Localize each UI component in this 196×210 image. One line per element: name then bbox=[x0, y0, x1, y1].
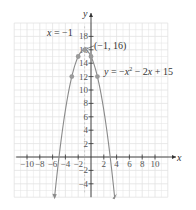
x-tick-label: −4 bbox=[61, 159, 71, 169]
y-tick-label: 18 bbox=[79, 31, 89, 41]
y-tick-label: −4 bbox=[78, 179, 88, 189]
x-tick-label: 4 bbox=[114, 159, 119, 169]
parabola-chart: −10−8−6−4−2246810−4−224681012141618 y x … bbox=[0, 0, 196, 210]
data-point bbox=[82, 47, 87, 52]
equation-label: y = −x2 − 2x + 15 bbox=[103, 66, 173, 77]
x-tick-label: 8 bbox=[140, 159, 145, 169]
y-tick-label: 12 bbox=[79, 72, 88, 82]
y-tick-label: 2 bbox=[84, 139, 89, 149]
data-point bbox=[89, 54, 94, 59]
y-tick-label: −2 bbox=[78, 165, 88, 175]
data-point bbox=[95, 74, 100, 79]
y-tick-label: 10 bbox=[79, 85, 89, 95]
data-point bbox=[69, 74, 74, 79]
y-tick-label: 8 bbox=[84, 98, 89, 108]
x-tick-label: −6 bbox=[48, 159, 58, 169]
y-tick-label: 4 bbox=[84, 125, 89, 135]
y-tick-label: 6 bbox=[84, 112, 89, 122]
x-tick-label: 2 bbox=[102, 159, 107, 169]
y-axis-arrow-icon bbox=[89, 13, 93, 17]
data-point bbox=[76, 54, 81, 59]
x-axis-arrow-icon bbox=[172, 155, 176, 159]
x-axis-label: x bbox=[176, 152, 182, 163]
y-axis-label: y bbox=[82, 8, 88, 19]
left-arrow-icon bbox=[52, 194, 56, 200]
x-tick-label: 10 bbox=[151, 159, 161, 169]
vertex-label: (−1, 16) bbox=[94, 40, 126, 52]
axis-of-symmetry-label: x = −1 bbox=[46, 27, 73, 38]
y-tick-label: 14 bbox=[79, 58, 89, 68]
x-tick-label: −10 bbox=[20, 159, 35, 169]
x-tick-label: 6 bbox=[127, 159, 132, 169]
x-tick-label: −8 bbox=[35, 159, 45, 169]
